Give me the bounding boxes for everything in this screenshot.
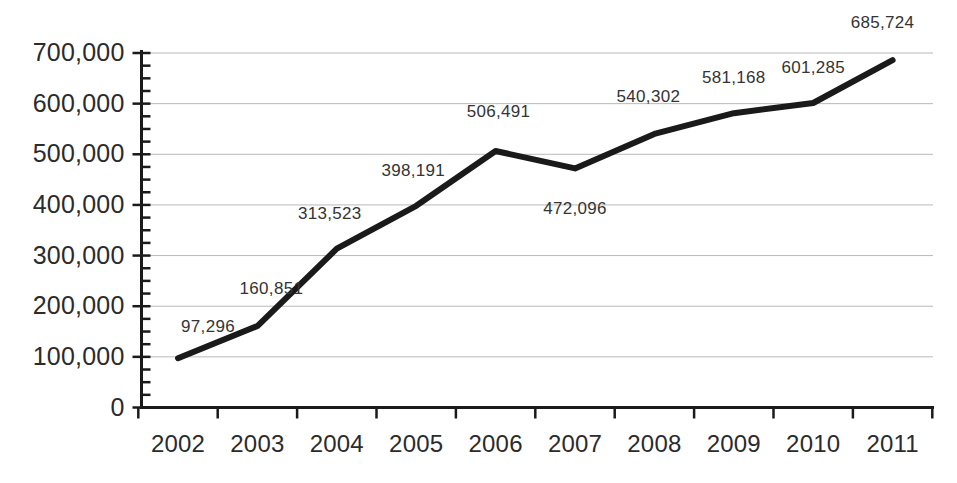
x-axis-tick-label: 2010: [768, 432, 858, 456]
x-axis-tick-label: 2005: [371, 432, 461, 456]
y-axis-tick-label: 700,000: [33, 40, 125, 65]
x-axis-tick-label: 2008: [609, 432, 699, 456]
x-axis-tick-label: 2007: [530, 432, 620, 456]
y-axis-tick-label: 100,000: [33, 344, 125, 369]
x-axis-tick-label: 2009: [689, 432, 779, 456]
x-axis-tick-label: 2003: [212, 432, 302, 456]
y-axis-tick-label: 300,000: [33, 243, 125, 268]
x-axis-tick-label: 2002: [133, 432, 223, 456]
data-point-label: 97,296: [158, 318, 258, 335]
x-axis-ticks: [138, 408, 932, 419]
data-point-label: 506,491: [449, 103, 549, 120]
data-point-label: 472,096: [525, 200, 625, 217]
y-axis-tick-label: 200,000: [33, 293, 125, 318]
x-axis-tick-label: 2004: [292, 432, 382, 456]
data-point-label: 601,285: [763, 59, 863, 76]
y-axis-tick-label: 500,000: [33, 141, 125, 166]
x-axis-tick-label: 2006: [451, 432, 541, 456]
data-point-label: 540,302: [598, 88, 698, 105]
y-axis-tick-label: 600,000: [33, 91, 125, 116]
data-point-label: 398,191: [363, 162, 463, 179]
line-chart: 700,000600,000500,000400,000300,000200,0…: [0, 0, 957, 483]
y-axis-tick-label: 400,000: [33, 192, 125, 217]
data-point-label: 313,523: [280, 205, 380, 222]
data-point-label: 685,724: [833, 14, 933, 31]
y-axis-tick-label: 0: [110, 395, 124, 420]
x-axis-tick-label: 2011: [848, 432, 938, 456]
data-point-label: 160,851: [221, 280, 321, 297]
